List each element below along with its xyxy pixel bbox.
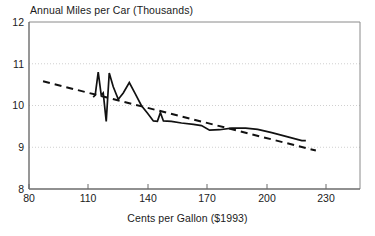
x-tick-label-170: 170 — [187, 192, 227, 204]
chart-container: Annual Miles per Car (Thousands) — [0, 0, 375, 236]
gridlines — [29, 64, 360, 148]
series-trend-line — [43, 81, 316, 150]
y-tick-12: 12 — [0, 16, 24, 28]
y-tick-9: 9 — [0, 141, 24, 153]
x-tick-label-80: 80 — [9, 192, 49, 204]
x-tick-label-140: 140 — [128, 192, 168, 204]
y-tick-label: 10 — [2, 99, 24, 111]
y-tick-label: 11 — [2, 58, 24, 70]
y-tick-11: 11 — [0, 58, 24, 70]
y-tick-label: 12 — [2, 16, 24, 28]
y-tick-label: 9 — [2, 141, 24, 153]
x-tick-marks — [29, 184, 326, 189]
x-tick-label-200: 200 — [247, 192, 287, 204]
x-axis-title: Cents per Gallon ($1993) — [0, 212, 375, 224]
x-tick-label-110: 110 — [68, 192, 108, 204]
y-tick-10: 10 — [0, 99, 24, 111]
x-tick-label-230: 230 — [306, 192, 346, 204]
series-miles-per-car — [93, 72, 306, 140]
